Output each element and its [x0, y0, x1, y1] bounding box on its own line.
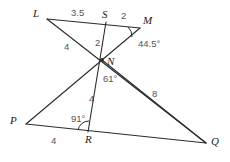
length-label-NR: 4 — [89, 94, 94, 104]
length-label-SN: 2 — [95, 38, 100, 48]
length-label-SM: 2 — [121, 11, 126, 21]
angle-label-M: 44.5° — [138, 39, 160, 49]
length-label-PR: 4 — [51, 136, 56, 146]
angle-label-N: 61° — [103, 74, 117, 84]
segment-N-Q — [102, 60, 206, 143]
vertex-label-R: R — [85, 134, 92, 145]
vertex-label-Q: Q — [211, 136, 219, 147]
vertex-label-P: P — [10, 115, 17, 126]
vertex-label-N: N — [107, 56, 114, 67]
intersection-point-N — [100, 58, 104, 62]
vertex-label-L: L — [33, 8, 39, 19]
length-label-LN: 4 — [64, 42, 69, 52]
geometry-diagram: L S M N P R Q 3.5 2 4 2 44.5° 61° 4 8 91… — [0, 0, 230, 162]
angle-label-R: 91° — [71, 114, 85, 124]
vertex-label-S: S — [102, 9, 108, 20]
vertex-label-M: M — [143, 15, 152, 26]
length-label-LS: 3.5 — [71, 8, 84, 18]
length-label-NQ: 8 — [152, 89, 157, 99]
